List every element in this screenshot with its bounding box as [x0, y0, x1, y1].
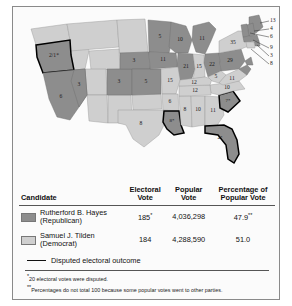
state-label-arkansas: 6 — [169, 98, 172, 104]
leader-label-connecticut: 8 — [270, 60, 273, 66]
state-montana — [67, 20, 119, 51]
footnote-two-text: Percentages do not total 100 because som… — [31, 287, 222, 293]
state-label-iowa: 11 — [160, 56, 166, 62]
state-texas — [118, 110, 165, 147]
state-newjersey — [245, 57, 253, 65]
footnote-one: *20 electoral votes were disputed. — [19, 271, 275, 283]
popular-vote-cell: 4,288,590 — [166, 229, 211, 252]
disputed-legend-row: Disputed electoral outcome — [19, 252, 275, 267]
state-label-southcarolina: 7* — [226, 98, 232, 103]
state-label-texas: 8 — [140, 120, 143, 126]
state-label-pennsylvania: 29 — [227, 57, 233, 63]
candidate-name-cell: Samuel J. Tilden (Democrat) — [38, 229, 124, 252]
disputed-line-icon — [27, 260, 46, 261]
header-popular-vote: Popular Vote — [166, 185, 211, 205]
state-label-georgia: 11 — [210, 107, 216, 113]
header-electoral-line2: Vote — [126, 194, 165, 202]
electoral-map: .h{fill:#8d8d8d;stroke:#6f6f6f;stroke-wi… — [13, 7, 281, 185]
percentage-cell: 47.9** — [211, 205, 275, 229]
table-header-row: Candidate Electoral Vote Popular Vote Pe… — [19, 185, 275, 205]
state-utah — [85, 69, 107, 95]
header-percentage: Percentage of Popular Vote — [211, 185, 275, 205]
popular-vote-cell: 4,036,298 — [166, 205, 211, 229]
table-row: Samuel J. Tilden (Democrat) 184 4,288,59… — [19, 229, 275, 252]
table-row: Rutherford B. Hayes (Republican) 185* 4,… — [19, 205, 275, 229]
state-label-alabama: 10 — [195, 106, 201, 112]
state-indian-territory — [132, 94, 162, 110]
leader-line-rhodeisland — [257, 45, 269, 56]
state-label-northcarolina: 10 — [224, 84, 230, 90]
leader-line-connecticut — [251, 49, 269, 64]
header-popular-line2: Vote — [168, 194, 209, 202]
swatch-cell — [19, 205, 38, 229]
candidate-name-cell: Rutherford B. Hayes (Republican) — [38, 205, 124, 229]
header-percentage-line2: Popular Vote — [213, 194, 273, 202]
state-label-westvirginia: 5 — [215, 73, 218, 79]
state-label-louisiana: 8* — [170, 118, 176, 123]
state-label-nebraska: 3 — [133, 57, 136, 63]
header-candidate: Candidate — [19, 185, 124, 205]
percentage-mark: ** — [248, 212, 252, 218]
figure-frame: .h{fill:#8d8d8d;stroke:#6f6f6f;stroke-wi… — [12, 6, 280, 300]
tilden-color-swatch — [21, 236, 36, 245]
state-label-virginia: 11 — [229, 75, 235, 81]
electoral-vote-value: 185 — [138, 213, 150, 222]
percentage-value: 47.9 — [234, 213, 248, 222]
leader-label-maine: 13 — [270, 17, 276, 23]
state-label-oregon: 2/1* — [49, 52, 59, 58]
results-table-area: Candidate Electoral Vote Popular Vote Pe… — [13, 185, 281, 294]
state-label-kansas: 5 — [145, 78, 148, 84]
results-table: Candidate Electoral Vote Popular Vote Pe… — [19, 185, 275, 252]
state-label-minnesota: 5 — [159, 33, 162, 39]
leader-label-newhampshire: 4 — [270, 25, 273, 31]
state-label-nevada: 3 — [78, 81, 81, 87]
state-wyoming — [89, 49, 120, 70]
state-label-wisconsin: 10 — [177, 36, 183, 42]
electoral-vote-cell: 185* — [124, 205, 167, 229]
state-label-illinois: 21 — [183, 63, 189, 69]
us-map-svg: .h{fill:#8d8d8d;stroke:#6f6f6f;stroke-wi… — [13, 7, 281, 185]
state-label-newyork: 35 — [230, 39, 236, 45]
state-label-missouri: 15 — [167, 77, 173, 83]
state-label-california: 6 — [60, 93, 63, 99]
state-label-colorado: 3 — [118, 78, 121, 84]
state-label-ohio: 22 — [209, 61, 215, 67]
electoral-vote-mark: * — [150, 212, 152, 218]
state-label-mississippi: 8 — [184, 106, 187, 112]
leader-label-rhodeisland: 3 — [270, 52, 273, 58]
footnote-two: **Percentages do not total 100 because s… — [19, 282, 275, 294]
state-label-florida: 4* — [218, 135, 224, 140]
percentage-cell: 51.0 — [211, 229, 275, 252]
electoral-vote-cell: 184 — [124, 229, 167, 252]
disputed-legend-label: Disputed electoral outcome — [51, 256, 141, 265]
state-label-kentucky: 12 — [191, 79, 197, 85]
header-electoral-vote: Electoral Vote — [124, 185, 167, 205]
state-florida — [205, 125, 239, 163]
state-label-tennessee: 12 — [192, 87, 198, 93]
state-connecticut — [246, 42, 255, 48]
state-dakota — [117, 19, 148, 53]
leader-label-massachusetts: 9 — [270, 44, 273, 50]
leader-label-vermont: 6 — [270, 33, 273, 39]
hayes-color-swatch — [21, 213, 36, 222]
footnote-one-text: 20 electoral votes were disputed. — [29, 275, 108, 281]
candidate-name-line2: (Republican) — [40, 217, 122, 226]
swatch-cell — [19, 229, 38, 252]
state-arizona — [87, 95, 108, 123]
state-label-michigan: 11 — [199, 35, 205, 41]
state-label-indiana: 15 — [196, 63, 202, 69]
candidate-name-line2: (Democrat) — [40, 240, 122, 249]
